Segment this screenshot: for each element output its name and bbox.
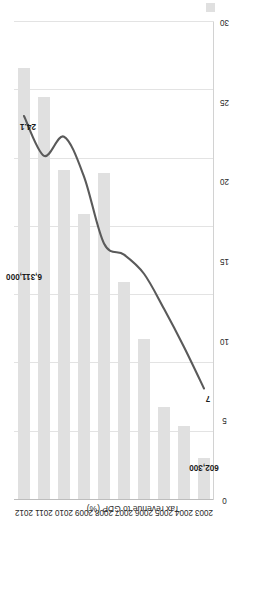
line-path <box>24 116 204 388</box>
primary-tick-5: 5 <box>222 416 227 425</box>
primary-tick-10: 10 <box>220 336 229 345</box>
category-tick-2005: 2005 <box>155 508 173 517</box>
category-tick-2004: 2004 <box>175 508 193 517</box>
primary-tick-30: 30 <box>220 18 229 27</box>
chart-stage: Tax revenue to GDP (%) Tax revenue in no… <box>0 0 269 538</box>
primary-tick-15: 15 <box>220 257 229 266</box>
data-label-2003: 7 <box>206 394 211 403</box>
category-tick-2010: 2010 <box>55 508 73 517</box>
line-series <box>14 22 214 500</box>
category-tick-2003: 2003 <box>195 508 213 517</box>
category-tick-2006: 2006 <box>135 508 153 517</box>
category-tick-2008: 2008 <box>95 508 113 517</box>
chart-figure: Tax revenue to GDP (%) Tax revenue in no… <box>0 0 269 538</box>
plot-area: 6,311,00024.1602,3007 <box>14 22 214 500</box>
category-tick-2011: 2011 <box>35 508 53 517</box>
data-label-2003: 602,300 <box>189 463 219 472</box>
category-tick-2009: 2009 <box>75 508 93 517</box>
primary-tick-20: 20 <box>220 177 229 186</box>
legend-bar-swatch <box>206 3 215 12</box>
primary-tick-25: 25 <box>220 97 229 106</box>
primary-tick-0: 0 <box>222 496 227 505</box>
category-tick-2012: 2012 <box>15 508 33 517</box>
data-label-2012: 24.1 <box>20 122 36 131</box>
data-label-2012: 6,311,000 <box>6 271 42 280</box>
category-tick-2007: 2007 <box>115 508 133 517</box>
chart-legend: Tax revenue in nominal (Current LCU) Tax… <box>10 0 220 14</box>
